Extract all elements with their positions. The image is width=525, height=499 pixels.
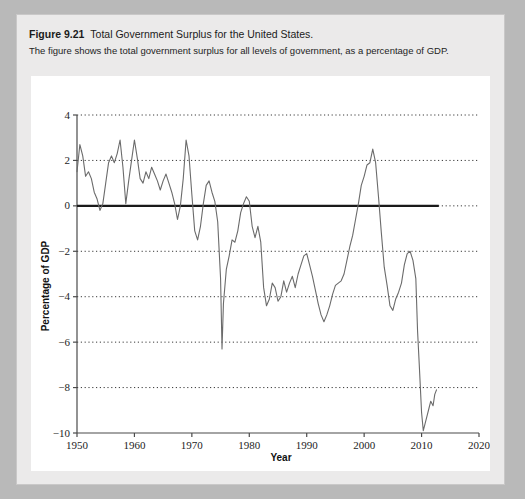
x-tick-label-1990: 1990 <box>296 439 319 451</box>
figure-title-text: Total Government Surplus for the United … <box>90 28 313 40</box>
figure-page: Figure 9.21 Total Government Surplus for… <box>0 0 525 499</box>
x-tick-label-2020: 2020 <box>468 439 490 451</box>
y-tick-label--8: −8 <box>58 381 70 393</box>
y-tick-label-4: 4 <box>65 109 71 121</box>
y-tick-label--2: −2 <box>58 245 70 257</box>
page-content-area: Figure 9.21 Total Government Surplus for… <box>16 14 505 485</box>
surplus-line-chart: −10−8−6−4−202419501960197019801990200020… <box>31 76 490 471</box>
chart-panel: −10−8−6−4−202419501960197019801990200020… <box>31 76 490 471</box>
figure-caption-block: Figure 9.21 Total Government Surplus for… <box>29 27 491 58</box>
axes <box>73 115 479 437</box>
x-tick-label-2010: 2010 <box>411 439 434 451</box>
y-tick-label-2: 2 <box>65 154 71 166</box>
x-tick-label-1950: 1950 <box>66 439 89 451</box>
y-tick-label-0: 0 <box>65 199 71 211</box>
figure-subtitle: The figure shows the total government su… <box>29 44 491 58</box>
x-tick-label-1980: 1980 <box>238 439 260 451</box>
figure-title: Figure 9.21 Total Government Surplus for… <box>29 27 491 41</box>
y-axis-title: Percentage of GDP <box>40 240 51 331</box>
x-tick-label-1960: 1960 <box>123 439 146 451</box>
x-tick-label-2000: 2000 <box>353 439 376 451</box>
y-tick-label--10: −10 <box>53 427 71 439</box>
y-tick-label--6: −6 <box>58 336 70 348</box>
x-tick-label-1970: 1970 <box>181 439 204 451</box>
y-tick-label--4: −4 <box>58 290 70 302</box>
x-axis-title: Year <box>270 452 291 463</box>
figure-number: Figure 9.21 <box>29 28 84 40</box>
